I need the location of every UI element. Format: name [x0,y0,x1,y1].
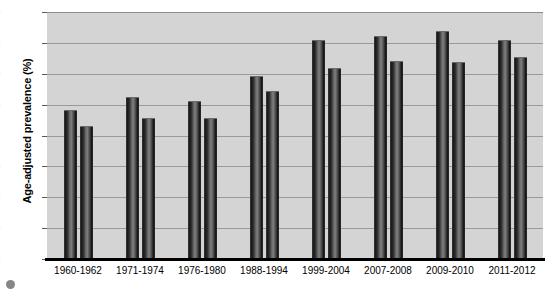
y-tick-mark [42,197,47,198]
bar [266,91,279,259]
gridline [47,228,543,229]
gridline [47,74,543,75]
x-axis-line [45,258,545,261]
bar [126,97,139,259]
chart-figure: Age-adjusted prevalence (%) 010203040506… [0,0,552,291]
gridline [47,105,543,106]
bar [374,36,387,259]
gridline [47,166,543,167]
x-tick-label: 2011-2012 [467,265,552,276]
bar [250,76,263,259]
bar [452,62,465,259]
bar [312,40,325,259]
y-tick-mark [42,74,47,75]
y-tick-mark [42,166,47,167]
y-tick-mark [42,136,47,137]
page-corner-mark [6,280,15,289]
plot-area [47,12,543,259]
gridline [47,197,543,198]
gridline [47,43,543,44]
y-tick-mark [42,43,47,44]
bar [436,31,449,259]
bar [80,126,93,259]
gridline [47,136,543,137]
y-tick-mark [42,228,47,229]
bar [514,57,527,259]
bar [142,118,155,259]
gridline [47,12,543,13]
bar [204,118,217,259]
y-tick-mark [42,105,47,106]
bar [498,40,511,259]
bar [328,68,341,259]
y-axis-title: Age-adjusted prevalence (%) [21,31,33,231]
bar [188,101,201,259]
bar [64,110,77,259]
y-tick-mark [42,12,47,13]
bar [390,61,403,259]
